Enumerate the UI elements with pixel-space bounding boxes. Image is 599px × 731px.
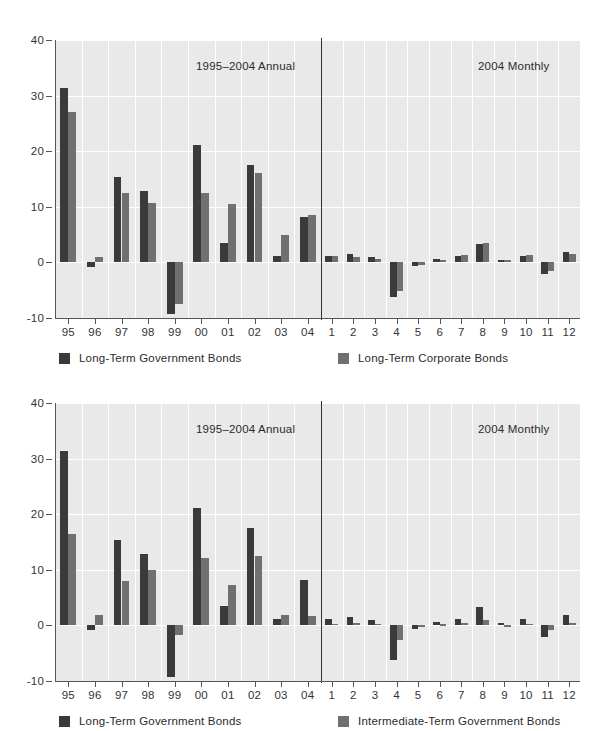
bar [397,262,403,291]
y-tick-label: 40 [31,34,44,46]
x-tick-label: 96 [88,689,101,701]
bar [220,606,228,625]
bar [175,262,183,304]
y-tick-mark [46,625,52,626]
bar [300,217,308,263]
bar [504,260,510,263]
bar [201,193,209,263]
plot-area-1 [55,40,580,318]
vertical-gridline [268,40,269,318]
y-tick-mark [46,151,52,152]
x-tick-mark [569,319,570,324]
gridline-10 [55,207,580,208]
bar [114,540,122,626]
gridline-10 [55,570,580,571]
bar [148,570,156,626]
vertical-gridline [451,403,452,681]
bar [201,558,209,626]
bar [175,625,183,635]
gridline-20 [55,514,580,515]
y-axis-line-1 [55,40,56,318]
y-tick-label: -10 [27,675,44,687]
x-tick-mark [308,682,309,687]
bar [68,534,76,626]
vertical-gridline [215,403,216,681]
legend-label: Intermediate-Term Government Bonds [358,715,560,727]
x-tick-mark [483,682,484,687]
y-tick-mark [46,262,52,263]
bar [476,244,482,262]
x-tick-mark [418,319,419,324]
x-tick-label: 4 [393,689,400,701]
x-tick-mark [526,319,527,324]
y-axis-labels-1: 403020100-10 [0,40,52,318]
x-tick-label: 11 [541,689,553,701]
x-tick-mark [255,319,256,324]
bar [247,165,255,263]
x-tick-mark [353,682,354,687]
vertical-gridline [108,403,109,681]
x-tick-mark [122,682,123,687]
x-tick-mark [95,319,96,324]
bar [563,615,569,626]
y-tick-mark [46,318,52,319]
bar [440,260,446,263]
vertical-gridline [343,403,344,681]
bar [498,260,504,263]
bar [228,204,236,262]
vertical-gridline [188,403,189,681]
vertical-gridline [82,40,83,318]
x-tick-label: 2 [350,689,357,701]
y-tick-label: 30 [31,453,44,465]
x-tick-mark [281,319,282,324]
y-tick-mark [46,459,52,460]
bar [418,625,424,627]
vertical-gridline [386,403,387,681]
x-tick-label: 2 [350,326,357,338]
y-tick-label: 10 [31,564,44,576]
bar [498,623,504,626]
x-tick-label: 3 [372,689,379,701]
vertical-gridline [343,40,344,318]
bar [60,88,68,263]
bar [347,254,353,263]
x-tick-label: 10 [519,326,532,338]
bar [122,581,130,625]
x-tick-label: 97 [115,326,128,338]
chart-panel-2: 403020100-10 959697989900010203041234567… [0,363,599,726]
annual-section-title-2: 1995–2004 Annual [196,423,295,435]
bar [87,262,95,267]
y-tick-mark [46,96,52,97]
y-tick-mark [46,681,52,682]
x-tick-mark [148,319,149,324]
x-tick-label: 5 [415,689,422,701]
x-tick-mark [504,682,505,687]
x-tick-mark [201,319,202,324]
x-tick-label: 04 [301,689,314,701]
bar [148,203,156,262]
vertical-gridline [451,40,452,318]
monthly-section-title-2: 2004 Monthly [478,423,549,435]
x-tick-mark [397,319,398,324]
y-tick-label: 20 [31,508,44,520]
bar [122,193,130,263]
bar [483,243,489,262]
x-tick-mark [308,319,309,324]
vertical-gridline [241,403,242,681]
vertical-gridline [188,40,189,318]
bar [548,625,554,630]
x-tick-mark [122,319,123,324]
x-tick-mark [255,682,256,687]
bar [308,616,316,625]
gridline-30 [55,459,580,460]
bar [569,623,575,625]
bar [140,554,148,625]
x-tick-label: 95 [62,326,75,338]
bar [347,617,353,626]
x-tick-mark [440,682,441,687]
y-tick-mark [46,40,52,41]
bar [433,259,439,262]
vertical-gridline [135,403,136,681]
legend-2: Long-Term Government BondsIntermediate-T… [0,715,599,731]
x-tick-label: 01 [221,689,234,701]
